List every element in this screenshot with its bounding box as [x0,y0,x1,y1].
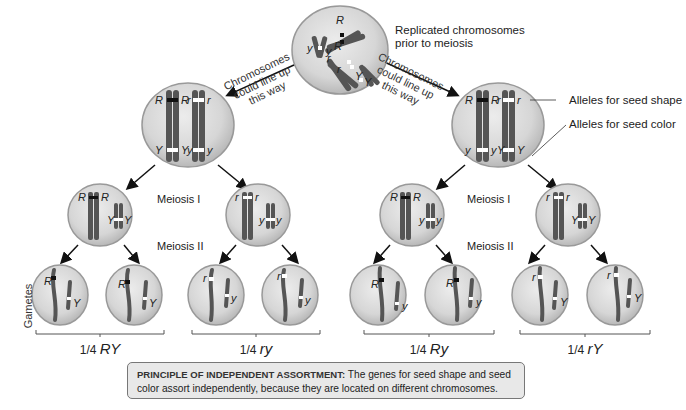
allele-label: R [44,275,52,288]
allele-label: r [607,269,611,282]
allele-label: y [326,45,332,58]
fraction-RY: 1/4 RY [60,340,140,357]
allele-label: r [337,63,341,76]
parent-caption: Replicated chromosomes prior to meiosis [395,24,525,50]
allele-label: Y [355,70,362,83]
allele-label: Y [517,144,524,157]
allele-label: R [371,278,379,291]
allele-label: Y [124,214,131,227]
allele-label: y [419,214,425,227]
allele-label: y [465,144,471,157]
allele-label: R [334,40,342,53]
allele-label: y [491,144,497,157]
allele-label: Y [107,214,114,227]
allele-label: Y [497,144,504,157]
allele-label: r [235,191,239,204]
meiosis1-label-left: Meiosis I [157,193,200,206]
allele-label: R [155,94,163,107]
allele-label: y [276,214,282,227]
fraction-rY: 1/4 rY [545,340,625,357]
allele-label: Y [560,296,567,309]
allele-label: Y [149,297,156,310]
allele-label: Y [571,214,578,227]
seed-shape-callout: Alleles for seed shape [569,94,682,107]
brackets [36,330,650,337]
allele-label: y [187,144,193,157]
fraction-ry: 1/4 ry [216,340,296,357]
allele-label: y [305,294,311,307]
meiosis2-label-left: Meiosis II [157,240,203,253]
allele-label: r [277,270,281,283]
gamete-cells [32,265,643,325]
allele-label: R [465,94,473,107]
allele-label: Y [73,297,80,310]
allele-label: Y [634,292,641,305]
allele-label: r [203,272,207,285]
allele-label: y [436,214,442,227]
meiosis2-label-right: Meiosis II [467,240,513,253]
allele-label: r [187,94,191,107]
allele-label: r [566,191,570,204]
allele-label: r [546,191,550,204]
allele-label: r [532,271,536,284]
allele-label: Y [155,144,162,157]
allele-label: y [207,144,213,157]
gametes-label: Gametes [22,276,34,336]
allele-label: r [517,94,521,107]
allele-label: R [390,191,398,204]
allele-label: y [307,42,313,55]
fraction-Ry: 1/4 Ry [389,340,469,357]
allele-label: R [446,277,454,290]
allele-label: y [476,296,482,309]
meiosis1-cells [68,184,600,246]
meiosis1-label-right: Meiosis I [467,193,510,206]
allele-label: R [413,191,421,204]
allele-label: y [259,214,265,227]
allele-label: R [78,191,86,204]
allele-label: r [255,191,259,204]
allele-label: y [231,292,237,305]
allele-label: y [402,300,408,313]
allele-label: R [118,278,126,291]
allele-label: r [207,94,211,107]
allele-label: R [336,14,344,27]
principle-box: PRINCIPLE OF INDEPENDENT ASSORTMENT: The… [127,362,525,399]
allele-label: r [497,94,501,107]
allele-label: R [101,191,109,204]
seed-color-callout: Alleles for seed color [569,118,676,131]
allele-label: Y [588,214,595,227]
